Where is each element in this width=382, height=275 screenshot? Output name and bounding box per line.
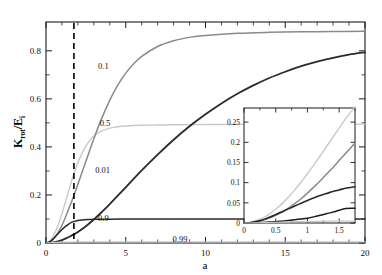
inset-x-tick-label: 1.5 [334, 226, 344, 235]
inset-plot-border [244, 108, 355, 223]
y-tick-label: 0.8 [30, 46, 42, 56]
inset-x-tick-label: 0 [242, 226, 246, 235]
curve-label-0p99: 0.99 [173, 234, 188, 244]
y-axis-title-text: Krot/Ei [11, 116, 27, 148]
inset-x-tick-label: 0.5 [271, 226, 281, 235]
y-axis-title: Krot/Ei [11, 116, 27, 148]
x-tick-label: 15 [281, 248, 291, 258]
x-tick-label: 0 [44, 248, 49, 258]
inset-y-tick-label: 0.05 [227, 199, 240, 208]
inset-y-tick-label: 0.2 [231, 138, 241, 147]
inset-axes-frame [244, 108, 355, 223]
curve-label-0p01: 0.01 [95, 165, 110, 175]
y-tick-label: 0 [37, 238, 42, 248]
inset-y-tick-label: 0.1 [231, 178, 241, 187]
y-tick-label: 0.2 [30, 190, 41, 200]
inset-y-tick-label: 0.15 [227, 158, 240, 167]
curve-label-0p1: 0.1 [98, 61, 109, 71]
inset-x-tick-label: 1 [306, 226, 310, 235]
inset-y-tick-label: 0 [236, 219, 240, 228]
figure-root: 0510152000.20.40.60.8 0.10.50.010.90.99 … [0, 0, 382, 275]
x-tick-label: 10 [201, 248, 211, 258]
x-axis-title: a [203, 259, 208, 271]
curve-label-0p5: 0.5 [100, 118, 111, 128]
x-tick-label: 5 [124, 248, 129, 258]
inset-y-tick-label: 0.25 [227, 118, 240, 127]
curve-label-0p9: 0.9 [98, 213, 109, 223]
y-tick-label: 0.4 [30, 142, 42, 152]
y-tick-label: 0.6 [30, 94, 42, 104]
x-tick-label: 20 [361, 248, 371, 258]
chart-canvas: 0510152000.20.40.60.8 0.10.50.010.90.99 … [0, 0, 382, 275]
